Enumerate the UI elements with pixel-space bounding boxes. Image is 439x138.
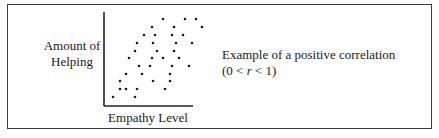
data-point	[182, 34, 185, 37]
data-point	[188, 65, 191, 68]
x-axis-label: Empathy Level	[104, 110, 192, 126]
data-point	[175, 42, 178, 45]
data-points	[112, 18, 204, 99]
y-axis-label: Amount of Helping	[40, 38, 104, 70]
data-point	[195, 18, 198, 21]
description-line1: Example of a positive correlation	[222, 47, 395, 63]
data-point	[178, 57, 181, 60]
y-axis-label-line1: Amount of	[40, 38, 104, 54]
data-point	[143, 34, 146, 37]
range-prefix: (0 <	[222, 63, 247, 78]
data-point	[134, 96, 137, 99]
data-point	[125, 73, 128, 76]
data-point	[151, 57, 154, 60]
data-point	[156, 50, 159, 53]
range-suffix: < 1)	[252, 63, 277, 78]
y-axis-label-line2: Helping	[40, 54, 104, 70]
data-point	[149, 65, 152, 68]
data-point	[128, 57, 131, 60]
data-point	[112, 96, 115, 99]
data-point	[151, 26, 154, 29]
data-point	[154, 34, 157, 37]
data-point	[152, 80, 155, 83]
data-point	[136, 42, 139, 45]
data-point	[119, 80, 122, 83]
data-point	[173, 50, 176, 53]
data-point	[169, 73, 172, 76]
data-point	[173, 26, 176, 29]
data-point	[134, 50, 137, 53]
correlation-description: Example of a positive correlation (0 < r…	[222, 47, 395, 79]
data-point	[152, 42, 155, 45]
data-point	[141, 73, 144, 76]
description-line2: (0 < r < 1)	[222, 63, 395, 79]
data-point	[184, 18, 187, 21]
data-point	[162, 57, 165, 60]
data-point	[171, 34, 174, 37]
data-point	[162, 18, 165, 21]
data-point	[136, 88, 139, 91]
data-point	[169, 80, 172, 83]
data-point	[191, 42, 194, 45]
data-point	[125, 88, 128, 91]
data-point	[171, 65, 174, 68]
data-point	[119, 88, 122, 91]
data-point	[138, 65, 141, 68]
data-point	[201, 26, 204, 29]
data-point	[164, 88, 167, 91]
